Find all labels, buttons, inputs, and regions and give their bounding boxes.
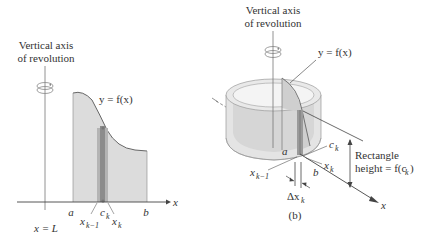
panel-a-tick-xk1: x k−1 [79,215,99,230]
diagram-canvas: Vertical axis of revolution y = f(x) x a… [0,0,425,234]
panel-b-curve-label: y = f(x) [318,46,352,59]
panel-b-tick-xk1: x k−1 [249,166,269,181]
panel-a-curve-label: y = f(x) [99,93,133,106]
svg-text:c: c [100,206,105,218]
x-axis-arrow-icon [166,200,171,205]
panel-a-axis-line-label: x = L [33,222,58,234]
svg-text:k: k [405,168,409,177]
panel-a-x-label: x [172,196,178,208]
panel-b-axis-label-line2: of revolution [244,17,302,29]
panel-a-tick-xk: x k [111,215,122,230]
svg-text:height = f(c: height = f(c [355,162,407,175]
panel-b-tick-ck: c k [329,138,339,153]
svg-text:x: x [249,166,255,178]
svg-text:k−1: k−1 [86,221,99,230]
panel-b: Vertical axis of revolution y = f( [212,4,414,222]
panel-b-delta-xk: Δx k [287,190,305,205]
svg-text:Δx: Δx [287,190,300,202]
x-axis-arrow-icon [369,196,379,203]
svg-text:): ) [410,162,414,175]
svg-text:c: c [329,138,334,150]
panel-a-region [73,92,147,202]
svg-text:x: x [111,215,117,227]
svg-text:k−1: k−1 [256,172,269,181]
panel-b-rect-label-line2: height = f(c k ) [355,162,414,177]
svg-text:k: k [106,212,110,221]
panel-a-axis-label-line1: Vertical axis [19,39,74,51]
svg-text:k: k [330,165,334,174]
panel-b-x-label: x [380,199,386,211]
panel-a-tick-a: a [68,206,74,218]
panel-b-tick-a: a [282,145,288,157]
panel-b-axis-label-line1: Vertical axis [246,4,301,16]
panel-b-rect-label-line1: Rectangle [355,149,399,161]
svg-text:x: x [79,215,85,227]
panel-b-tick-b: b [313,166,319,178]
panel-a-axis-label-line2: of revolution [17,52,75,64]
svg-text:k: k [335,144,339,153]
panel-a: Vertical axis of revolution y = f(x) x a… [17,39,178,234]
svg-text:x: x [323,159,329,171]
panel-b-caption: (b) [289,209,302,222]
panel-a-tick-ck: c k [100,206,110,221]
panel-a-tick-b: b [143,206,149,218]
svg-text:k: k [301,196,305,205]
svg-text:k: k [118,221,122,230]
